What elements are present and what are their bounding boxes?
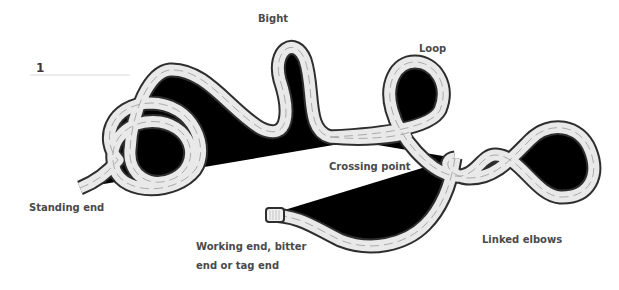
label-loop: Loop xyxy=(419,43,446,54)
label-linked-elbows: Linked elbows xyxy=(482,234,562,245)
label-working-end-line2: end or tag end xyxy=(196,260,279,271)
label-standing-end: Standing end xyxy=(29,202,104,213)
rope-illustration xyxy=(0,0,619,290)
rope-terminology-diagram: 1 Bight Loop Crossing point Standing end… xyxy=(0,0,619,290)
working-end-tip xyxy=(266,208,284,222)
label-working-end-line1: Working end, bitter xyxy=(196,241,307,252)
label-crossing-point: Crossing point xyxy=(329,161,411,172)
figure-number: 1 xyxy=(36,61,44,75)
label-bight: Bight xyxy=(258,13,288,24)
